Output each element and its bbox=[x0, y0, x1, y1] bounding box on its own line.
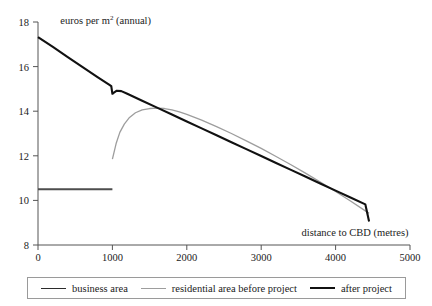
x-axis-title: distance to CBD (metres) bbox=[301, 227, 409, 239]
series-line-after-project bbox=[38, 37, 369, 221]
x-tick-label: 3000 bbox=[251, 252, 272, 263]
x-tick-label: 0 bbox=[35, 252, 40, 263]
y-tick-label: 18 bbox=[19, 17, 30, 28]
legend-line-icon-residential-before bbox=[141, 288, 166, 289]
y-tick-label: 10 bbox=[19, 195, 30, 206]
y-axis-title: euros per m2 (annual) bbox=[60, 14, 151, 27]
legend-label-residential-before: residential area before project bbox=[172, 283, 297, 294]
series-line-residential-area-before-project bbox=[112, 108, 369, 213]
legend-line-icon-after-project bbox=[310, 287, 335, 289]
y-tick-label: 8 bbox=[24, 240, 29, 251]
x-tick-label: 5000 bbox=[400, 252, 421, 263]
legend-item-residential-before: residential area before project bbox=[141, 283, 297, 294]
legend-item-business-area: business area bbox=[41, 283, 128, 294]
legend-label-after-project: after project bbox=[341, 283, 392, 294]
y-tick-label: 14 bbox=[19, 106, 30, 117]
y-tick-label: 16 bbox=[19, 62, 30, 73]
legend-label-business-area: business area bbox=[72, 283, 128, 294]
chart-root: 01000200030004000500081012141618euros pe… bbox=[0, 0, 432, 306]
bid-rent-chart: 01000200030004000500081012141618euros pe… bbox=[0, 0, 432, 270]
x-tick-label: 2000 bbox=[176, 252, 197, 263]
y-tick-label: 12 bbox=[19, 151, 30, 162]
chart-legend: business area residential area before pr… bbox=[27, 277, 406, 299]
plot-area: 01000200030004000500081012141618euros pe… bbox=[0, 0, 432, 270]
legend-line-icon-business-area bbox=[41, 288, 66, 289]
x-tick-label: 4000 bbox=[325, 252, 346, 263]
x-tick-label: 1000 bbox=[102, 252, 123, 263]
legend-item-after-project: after project bbox=[310, 283, 392, 294]
